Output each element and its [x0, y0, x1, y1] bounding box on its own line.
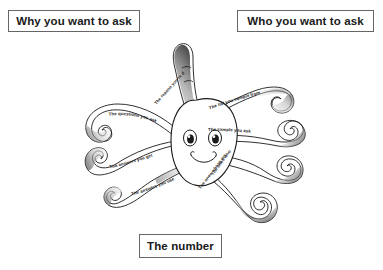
octopus-left-eye [184, 130, 197, 146]
caption-number-label: The number [147, 240, 214, 252]
octopus-head [171, 99, 237, 186]
caption-why-label: Why you want to ask [16, 15, 132, 27]
caption-box-number: The number [139, 234, 222, 258]
tentacle-answers-get [85, 141, 182, 175]
tentacle-label-answers-use: The answers you use [131, 176, 176, 196]
tentacle-questions [86, 104, 177, 142]
diagram-canvas: Why you want to ask Who you want to ask … [0, 0, 383, 270]
octopus-illustration: The reason you're doing it The questions… [60, 38, 325, 223]
caption-box-why: Why you want to ask [8, 10, 140, 32]
octopus-right-eye [209, 130, 222, 146]
tentacle-label-reason: The reason you're doing it [59, 34, 186, 105]
caption-box-who: Who you want to ask [237, 10, 374, 32]
caption-who-label: Who you want to ask [247, 15, 363, 27]
